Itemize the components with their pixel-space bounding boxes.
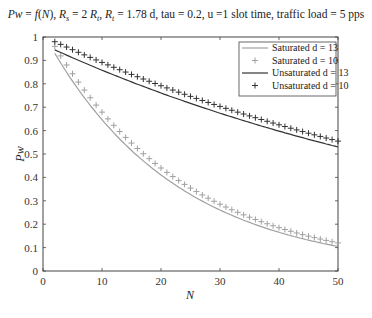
x-tick-label: 10 <box>97 275 109 287</box>
y-axis-label: Pw <box>13 146 27 162</box>
y-tick-label: 0.8 <box>24 78 38 90</box>
y-tick-label: 0.9 <box>24 54 38 66</box>
y-tick-label: 0.3 <box>24 195 38 207</box>
legend-item: Saturated d = 13 <box>272 42 338 53</box>
y-tick-label: 1 <box>33 31 39 43</box>
legend: Saturated d = 13Saturated d = 10Unsatura… <box>239 42 348 96</box>
x-axis-label: N <box>185 288 195 302</box>
y-tick-label: 0.1 <box>24 242 38 254</box>
y-tick-label: 0.6 <box>24 125 38 137</box>
x-tick-label: 40 <box>274 275 286 287</box>
y-tick-label: 0 <box>33 265 39 277</box>
y-tick-label: 0.4 <box>24 171 38 183</box>
x-tick-label: 50 <box>333 275 345 287</box>
x-tick-label: 20 <box>156 275 168 287</box>
x-tick-label: 0 <box>40 275 46 287</box>
legend-item: Unsaturated d = 10 <box>272 80 348 91</box>
y-tick-label: 0.2 <box>24 218 38 230</box>
x-tick-label: 30 <box>215 275 227 287</box>
y-tick-label: 0.7 <box>24 101 38 113</box>
legend-item: Saturated d = 10 <box>272 55 338 66</box>
legend-item: Unsaturated d = 13 <box>272 67 348 78</box>
line-chart: 00.10.20.30.40.50.60.70.80.91 0102030405… <box>0 0 372 318</box>
